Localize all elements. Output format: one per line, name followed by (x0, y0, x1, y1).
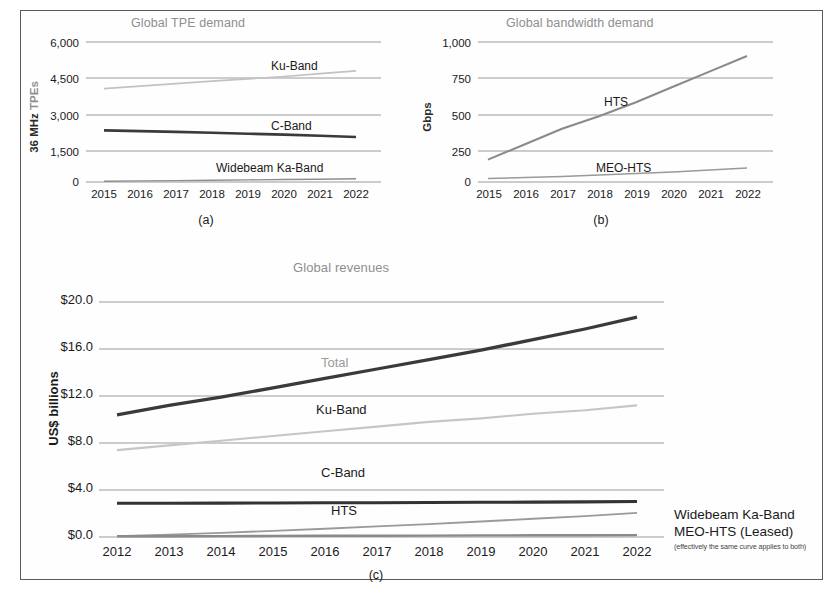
series-label-c-band-a: C-Band (271, 119, 312, 133)
panel-caption-b: (b) (581, 213, 621, 227)
x-tick-c-2018: 2018 (403, 544, 455, 559)
annotation-widebeam-meo: Widebeam Ka-Band MEO-HTS (Leased) (effec… (674, 507, 806, 551)
series-label-ku-band-c: Ku-Band (316, 402, 367, 417)
y-tick-a-1500: 1,500 (31, 146, 79, 158)
x-tick-b-2021: 2021 (690, 188, 732, 200)
chart-panel-b: Global bandwidth demand Gbps 1,000 750 5… (411, 11, 811, 226)
y-tick-b-250: 250 (423, 146, 471, 158)
annotation-line-2: MEO-HTS (Leased) (674, 524, 793, 539)
annotation-line-1: Widebeam Ka-Band (674, 507, 795, 522)
series-line-widebeam-ka-band-meo-hts-c (117, 535, 637, 536)
series-label-meo-hts-b: MEO-HTS (596, 161, 651, 175)
chart-title-c: Global revenues (293, 260, 389, 275)
panel-caption-a: (a) (186, 213, 226, 227)
y-tick-b-1000: 1,000 (423, 37, 471, 49)
y-tick-c-12: $12.0 (33, 386, 93, 401)
series-line-c-band-a (104, 130, 356, 137)
series-label-ku-band-a: Ku-Band (271, 59, 318, 73)
x-tick-c-2017: 2017 (351, 544, 403, 559)
chart-panel-c: Global revenues US$ billions $20.0 $16.0… (21, 246, 824, 581)
chart-title-b: Global bandwidth demand (506, 16, 654, 30)
y-tick-c-16: $16.0 (33, 339, 93, 354)
y-tick-a-0: 0 (31, 176, 79, 188)
y-tick-c-8: $8.0 (33, 433, 93, 448)
x-tick-c-2021: 2021 (559, 544, 611, 559)
x-tick-b-2015: 2015 (468, 188, 510, 200)
x-tick-b-2017: 2017 (542, 188, 584, 200)
x-tick-c-2022: 2022 (611, 544, 663, 559)
series-label-hts-c: HTS (331, 503, 357, 518)
y-tick-a-6000: 6,000 (31, 37, 79, 49)
x-tick-b-2020: 2020 (653, 188, 695, 200)
x-tick-c-2013: 2013 (143, 544, 195, 559)
x-tick-b-2019: 2019 (616, 188, 658, 200)
y-tick-c-20: $20.0 (33, 292, 93, 307)
series-label-widebeam-ka-band-a: Widebeam Ka-Band (216, 161, 323, 175)
series-label-total-c: Total (321, 355, 348, 370)
y-tick-a-4500: 4,500 (31, 73, 79, 85)
chart-title-a: Global TPE demand (131, 16, 245, 30)
x-tick-c-2016: 2016 (299, 544, 351, 559)
x-tick-c-2020: 2020 (507, 544, 559, 559)
y-tick-b-500: 500 (423, 110, 471, 122)
y-tick-c-0: $0.0 (33, 527, 93, 542)
series-label-c-band-c: C-Band (321, 465, 365, 480)
y-tick-b-750: 750 (423, 73, 471, 85)
x-tick-c-2015: 2015 (247, 544, 299, 559)
series-line-widebeam-ka-band-a (104, 179, 356, 182)
series-label-hts-b: HTS (604, 95, 628, 109)
panel-caption-c: (c) (356, 568, 396, 582)
x-tick-c-2019: 2019 (455, 544, 507, 559)
series-line-ku-band-a (104, 71, 356, 89)
x-tick-b-2022: 2022 (727, 188, 769, 200)
series-line-c-band-c (117, 502, 637, 504)
y-tick-a-3000: 3,000 (31, 110, 79, 122)
x-tick-a-2022: 2022 (335, 188, 377, 200)
figure-frame: Global TPE demand 36 MHz TPEs 6,000 4,50… (20, 10, 823, 580)
x-tick-b-2018: 2018 (579, 188, 621, 200)
annotation-fine-print: (effectively the same curve applies to b… (674, 542, 806, 551)
x-tick-c-2014: 2014 (195, 544, 247, 559)
series-line-hts-c (117, 513, 637, 536)
y-tick-b-0: 0 (423, 176, 471, 188)
y-tick-c-4: $4.0 (33, 480, 93, 495)
plot-area-c (99, 292, 664, 542)
x-tick-c-2012: 2012 (91, 544, 143, 559)
chart-panel-a: Global TPE demand 36 MHz TPEs 6,000 4,50… (21, 11, 401, 226)
y-axis-label-a-dim: TPEs (28, 81, 40, 110)
x-tick-b-2016: 2016 (505, 188, 547, 200)
series-line-total-c (117, 317, 637, 415)
